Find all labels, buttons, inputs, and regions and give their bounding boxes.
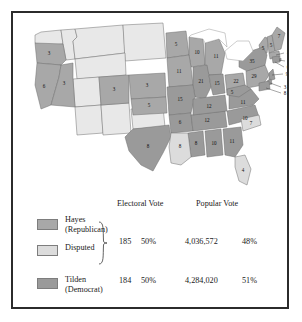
label-TN: 12 (204, 117, 210, 123)
label-IA: 11 (177, 68, 182, 74)
cell-hayes-popular-votes: 4,036,572 (185, 237, 218, 246)
label-CA: 6 (43, 83, 46, 89)
label-PA: 29 (251, 73, 257, 79)
label-MI: 11 (214, 53, 219, 59)
label-TX: 8 (147, 143, 150, 149)
legend-brace (98, 221, 109, 265)
label-IL: 21 (198, 78, 204, 84)
legend-and-results-table: Hayes (Republican) Disputed Tilden (Demo… (13, 195, 287, 307)
label-KY: 12 (206, 103, 212, 109)
state-CT (272, 56, 280, 63)
legend-label-tilden: Tilden (65, 275, 86, 285)
label-OR: 3 (48, 50, 51, 56)
cell-hayes-popular-pct: 48% (242, 237, 257, 246)
label-WI: 10 (194, 49, 200, 55)
legend-label-disputed: Disputed (65, 243, 95, 253)
label-WV: 5 (231, 89, 234, 95)
label-NY: 35 (249, 58, 255, 64)
label-AR: 6 (179, 119, 182, 125)
label-NC: 10 (242, 115, 248, 121)
label-VA: 11 (241, 99, 246, 105)
label-FL: 4 (242, 167, 245, 173)
legend-swatch-hayes (37, 219, 58, 230)
territory-arizona (75, 105, 103, 135)
territory-utah (73, 77, 101, 107)
cell-hayes-electoral-pct: 50% (141, 237, 156, 246)
label-VT: 5 (262, 45, 265, 51)
label-NV: 3 (63, 80, 66, 86)
label-MO: 15 (177, 96, 183, 102)
label-SC: 7 (250, 120, 253, 126)
territory-dakota (123, 23, 166, 61)
column-header-popular-vote: Popular Vote (196, 199, 238, 208)
label-AL: 10 (211, 140, 217, 146)
state-MD (259, 81, 270, 91)
label-NE: 3 (146, 82, 149, 88)
label-KS: 5 (148, 102, 151, 108)
label-MS: 8 (195, 140, 198, 146)
cell-tilden-popular-votes: 4,284,020 (185, 276, 218, 285)
territory-new-mexico (101, 103, 131, 135)
label-IN: 15 (214, 80, 220, 86)
map-svg: 3 6 3 3 3 5 5 10 11 11 21 15 22 15 6 8 8… (13, 13, 287, 195)
state-MN (166, 31, 189, 58)
cell-tilden-popular-pct: 51% (242, 276, 257, 285)
label-GA: 11 (230, 138, 235, 144)
label-CO: 3 (113, 86, 116, 92)
cell-hayes-electoral-votes: 185 (119, 237, 131, 246)
legend-sublabel-tilden: (Democrat) (65, 285, 103, 295)
label-LA: 8 (179, 143, 182, 149)
cell-tilden-electoral-votes: 184 (119, 276, 131, 285)
label-NJ: 9 (286, 71, 287, 77)
label-NH: 5 (270, 42, 273, 48)
label-ME: 7 (278, 33, 281, 39)
us-election-map: 3 6 3 3 3 5 5 10 11 11 21 15 22 15 6 8 8… (13, 13, 287, 195)
legend-swatch-tilden (37, 278, 58, 289)
cell-tilden-electoral-pct: 50% (141, 276, 156, 285)
label-MN: 5 (175, 41, 178, 47)
state-OR (35, 43, 66, 65)
label-MD: 8 (284, 90, 287, 96)
legend-label-hayes: Hayes (65, 215, 85, 225)
column-header-electoral-vote: Electoral Vote (117, 199, 163, 208)
label-OH: 22 (233, 78, 239, 84)
label-MA: 13 (286, 49, 287, 55)
figure-frame: 3 6 3 3 3 5 5 10 11 11 21 15 22 15 6 8 8… (11, 11, 289, 309)
legend-swatch-disputed (37, 245, 58, 256)
